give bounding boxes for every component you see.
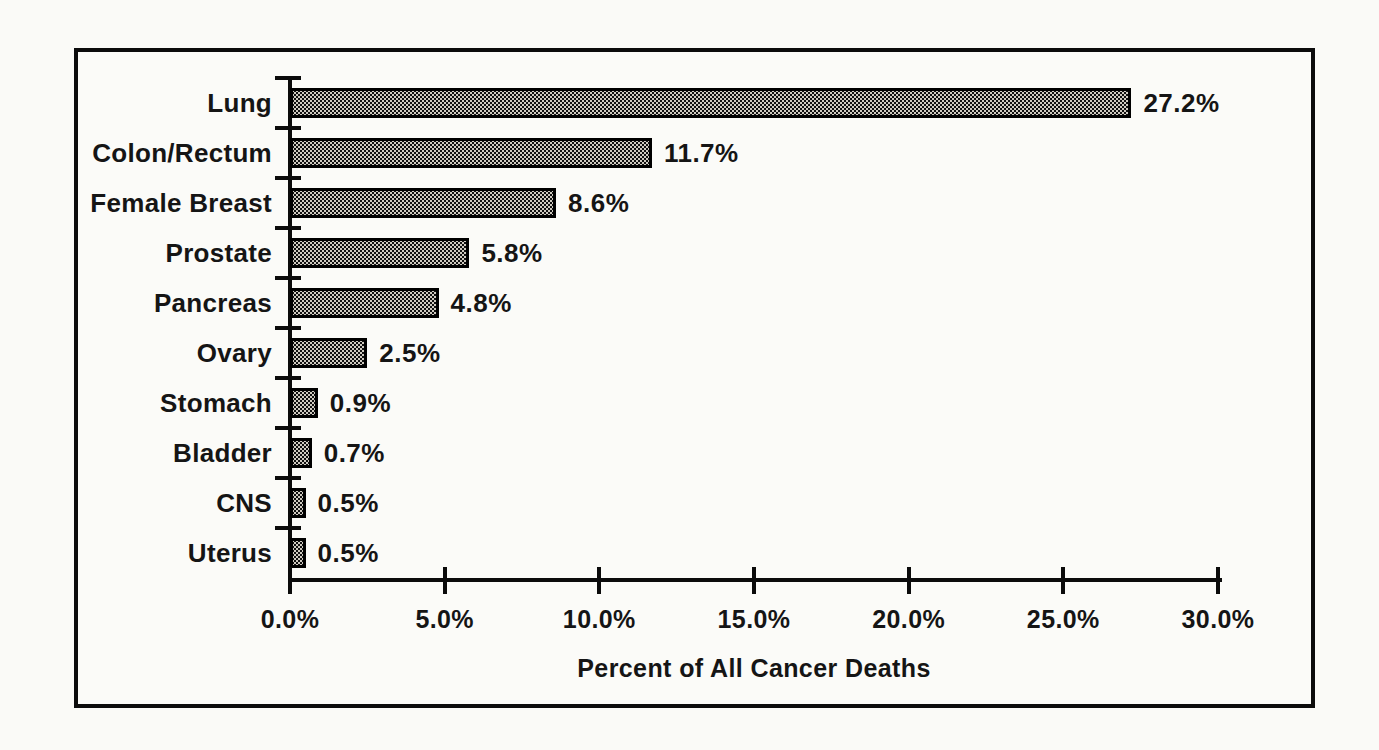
bar xyxy=(290,388,318,418)
x-axis-tick xyxy=(1216,567,1220,594)
bar xyxy=(290,138,652,168)
y-axis-tick xyxy=(275,326,301,330)
category-label: Lung xyxy=(78,88,272,118)
value-label: 5.8% xyxy=(481,238,542,268)
chart-canvas: Lung27.2%Colon/Rectum11.7%Female Breast8… xyxy=(0,0,1379,750)
bar xyxy=(290,438,312,468)
category-label: Bladder xyxy=(78,438,272,468)
x-tick-label: 25.0% xyxy=(993,605,1133,634)
y-axis-tick xyxy=(275,176,301,180)
y-axis-tick xyxy=(275,476,301,480)
bar xyxy=(290,338,367,368)
y-axis-tick xyxy=(275,126,301,130)
bar xyxy=(290,188,556,218)
value-label: 11.7% xyxy=(664,138,739,168)
x-axis-tick xyxy=(597,567,601,594)
x-tick-label: 10.0% xyxy=(529,605,669,634)
value-label: 2.5% xyxy=(379,338,440,368)
category-label: Stomach xyxy=(78,388,272,418)
category-label: Colon/Rectum xyxy=(78,138,272,168)
x-axis-tick xyxy=(288,567,292,594)
x-tick-label: 5.0% xyxy=(375,605,515,634)
y-axis-tick xyxy=(275,276,301,280)
x-tick-label: 0.0% xyxy=(220,605,360,634)
y-axis-tick xyxy=(275,426,301,430)
category-label: Uterus xyxy=(78,538,272,568)
value-label: 0.5% xyxy=(318,538,379,568)
value-label: 0.5% xyxy=(318,488,379,518)
y-axis-tick xyxy=(275,526,301,530)
bar xyxy=(290,238,469,268)
x-axis-tick xyxy=(752,567,756,594)
value-label: 0.9% xyxy=(330,388,391,418)
category-label: Prostate xyxy=(78,238,272,268)
bar xyxy=(290,488,306,518)
category-label: CNS xyxy=(78,488,272,518)
bar xyxy=(290,88,1131,118)
bar xyxy=(290,538,306,568)
bar xyxy=(290,288,439,318)
value-label: 27.2% xyxy=(1143,88,1219,118)
x-tick-label: 30.0% xyxy=(1148,605,1288,634)
value-label: 4.8% xyxy=(451,288,512,318)
y-axis-tick xyxy=(275,376,301,380)
category-label: Female Breast xyxy=(78,188,272,218)
x-axis-tick xyxy=(907,567,911,594)
chart-frame: Lung27.2%Colon/Rectum11.7%Female Breast8… xyxy=(74,48,1315,708)
y-axis-tick xyxy=(275,76,301,80)
value-label: 0.7% xyxy=(324,438,385,468)
category-label: Ovary xyxy=(78,338,272,368)
x-axis-title: Percent of All Cancer Deaths xyxy=(454,654,1054,683)
x-axis-tick xyxy=(1061,567,1065,594)
x-axis-tick xyxy=(443,567,447,594)
x-tick-label: 20.0% xyxy=(839,605,979,634)
y-axis-tick xyxy=(275,226,301,230)
category-label: Pancreas xyxy=(78,288,272,318)
plot-area: Lung27.2%Colon/Rectum11.7%Female Breast8… xyxy=(78,52,1311,704)
x-tick-label: 15.0% xyxy=(684,605,824,634)
value-label: 8.6% xyxy=(568,188,629,218)
